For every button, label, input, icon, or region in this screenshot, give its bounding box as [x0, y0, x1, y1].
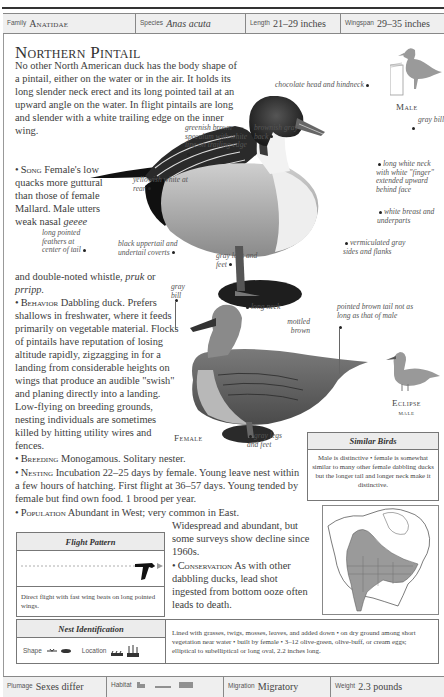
- family-label: Family: [7, 19, 26, 26]
- conservation-paragraph: •Conservation As with other dabbling duc…: [172, 559, 312, 611]
- nest-location-icons: [110, 644, 142, 658]
- ann-mottled-brown: mottled brown: [270, 318, 310, 335]
- nesting-text: Incubation 22–25 days by female. Young l…: [15, 467, 299, 504]
- behavior-text: Dabbling duck. Prefers shallows in fresh…: [15, 297, 179, 451]
- male-silhouette-size-icon: [390, 45, 444, 103]
- weight-cell: Weight 2.3 pounds: [331, 677, 444, 697]
- nest-icons-row: Shape Location: [17, 638, 165, 663]
- behavior-lead: Behavior: [21, 297, 59, 308]
- ann-dot: [412, 127, 415, 130]
- flight-pattern-box: Flight Pattern Direct flight with fast w…: [16, 532, 165, 617]
- ann-female-gray-bill: gray bill: [171, 283, 193, 300]
- population-text-b: Widespread and abundant, but some survey…: [172, 520, 309, 557]
- wingspan-label: Wingspan: [345, 19, 374, 26]
- behavior-paragraph: •Behavior Dabbling duck. Prefers shallow…: [15, 296, 180, 452]
- plumage-label: Plumage: [7, 682, 33, 689]
- family-cell: Family Anatidae: [3, 14, 136, 33]
- ann-chocolate-head: chocolate head and hindneck: [275, 81, 371, 90]
- ann-leader: [339, 328, 340, 374]
- ann-vermiculated-gray: vermiculated gray sides and flanks: [343, 239, 413, 256]
- habitat-icons: [135, 681, 195, 689]
- population-paragraph-cont: Widespread and abundant, but some survey…: [172, 519, 312, 558]
- nest-shape-label: Shape: [23, 647, 42, 654]
- ann-long-pointed-feathers: long pointed feathers at center of tail: [42, 229, 92, 255]
- breeding-lead: Breeding: [21, 453, 59, 464]
- female-label: Female: [174, 433, 203, 443]
- bullet-icon: •: [15, 507, 19, 518]
- flight-pattern-title: Flight Pattern: [17, 533, 164, 551]
- migration-value: Migratory: [258, 681, 299, 692]
- bullet-icon: •: [15, 467, 19, 478]
- ann-long-white-neck: long white neck with white "finger" exte…: [376, 160, 444, 194]
- ann-female-gray-legs: gray legs and feet: [247, 432, 287, 449]
- ann-leader: [175, 302, 176, 330]
- bullet-icon: •: [15, 297, 19, 308]
- eclipse-label: Eclipse male: [392, 398, 421, 418]
- nest-location-label: Location: [82, 647, 107, 654]
- ann-male-gray-bill: gray bill: [410, 116, 444, 125]
- page-top-rule: [2, 7, 444, 9]
- species-footer-bar: Plumage Sexes differ Habitat Migration M…: [3, 676, 444, 697]
- bullet-icon: •: [15, 453, 19, 464]
- breeding-paragraph: •Breeding Monogamous. Solitary nester.: [15, 452, 255, 465]
- species-label: Species: [140, 19, 163, 26]
- nest-identification-title: Nest Identification: [17, 620, 165, 638]
- song-lead: Song: [21, 164, 42, 175]
- nesting-lead: Nesting: [21, 467, 53, 478]
- nest-identification-box: Nest Identification Shape Location Lined…: [16, 619, 439, 664]
- ann-black-uppertail: black uppertail and undertail coverts: [118, 240, 180, 257]
- wingspan-value: 29–35 inches: [377, 18, 430, 29]
- ann-long-neck: long neck: [244, 303, 280, 312]
- similar-birds-text: Male is distinctive • female is somewhat…: [308, 450, 438, 492]
- flight-pattern-text: Direct flight with fast wing beats on lo…: [17, 587, 164, 615]
- length-label: Length: [250, 19, 270, 26]
- eclipse-label-line2: male: [392, 408, 421, 418]
- ann-speculum: greenish brown speculum with white line …: [185, 124, 247, 158]
- population-text-a: Abundant in West; very common in East.: [68, 507, 239, 518]
- length-value: 21–29 inches: [273, 18, 326, 29]
- habitat-label: Habitat: [111, 681, 132, 688]
- ann-male-gray-legs: gray legs and feet: [216, 252, 260, 269]
- flight-pattern-graphic: [17, 551, 164, 587]
- conservation-lead: Conservation: [178, 560, 232, 571]
- species-cell: Species Anas acuta: [136, 14, 246, 33]
- similar-birds-box: Similar Birds Male is distinctive • fema…: [307, 432, 439, 501]
- migration-label: Migration: [228, 682, 255, 689]
- population-lead: Population: [21, 507, 66, 518]
- range-map: [322, 505, 439, 615]
- eclipse-male-illustration: [382, 346, 442, 391]
- ann-yellowish-white: yellowish white at rear: [133, 176, 188, 193]
- similar-birds-title: Similar Birds: [308, 433, 438, 450]
- song-call-geeee: geeee: [63, 216, 87, 227]
- habitat-cell: Habitat: [107, 677, 224, 697]
- ann-pointed-brown-tail: pointed brown tail not as long as that o…: [337, 303, 417, 320]
- ann-brownish-gray-back: brownish gray back: [254, 124, 298, 141]
- weight-label: Weight: [335, 682, 355, 689]
- ann-white-breast: white breast and underparts: [377, 208, 443, 225]
- flight-path-icon: [17, 551, 164, 587]
- population-paragraph: •Population Abundant in West; very commo…: [15, 506, 305, 519]
- species-info-bar: Family Anatidae Species Anas acuta Lengt…: [3, 13, 444, 34]
- male-label: Male: [396, 102, 418, 112]
- migration-cell: Migration Migratory: [224, 677, 331, 697]
- bullet-icon: •: [172, 560, 176, 571]
- song-call-prripp: prripp.: [15, 284, 44, 295]
- species-value: Anas acuta: [166, 18, 211, 29]
- plumage-value: Sexes differ: [36, 681, 84, 692]
- nest-shape-icons: [46, 647, 72, 655]
- nest-identification-text: Lined with grasses, twigs, mosses, leave…: [166, 620, 438, 663]
- eclipse-label-line1: Eclipse: [392, 398, 421, 408]
- wingspan-cell: Wingspan 29–35 inches: [341, 14, 444, 33]
- bullet-icon: •: [15, 164, 19, 175]
- nesting-paragraph: •Nesting Incubation 22–25 days by female…: [15, 466, 305, 505]
- length-cell: Length 21–29 inches: [246, 14, 341, 33]
- weight-value: 2.3 pounds: [358, 681, 402, 692]
- breeding-text: Monogamous. Solitary nester.: [61, 453, 186, 464]
- plumage-cell: Plumage Sexes differ: [3, 677, 107, 697]
- family-value: Anatidae: [29, 18, 68, 29]
- north-america-map: [323, 506, 438, 614]
- nest-identification-left: Nest Identification Shape Location: [17, 620, 166, 663]
